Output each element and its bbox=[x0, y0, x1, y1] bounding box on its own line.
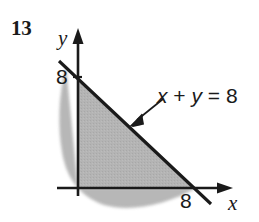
y-axis-arrowhead-icon bbox=[73, 28, 84, 44]
equation-value: 8 bbox=[226, 84, 238, 107]
equation-plus-operator: + bbox=[173, 84, 186, 107]
equation-variable-x: x bbox=[157, 84, 168, 107]
y-intercept-tick-label: 8 bbox=[56, 66, 68, 87]
graph-canvas bbox=[0, 0, 259, 222]
x-intercept-tick-label: 8 bbox=[180, 190, 192, 211]
y-axis-label: y bbox=[58, 28, 67, 49]
exercise-number: 13 bbox=[11, 18, 31, 39]
equation-equals-operator: = bbox=[208, 84, 221, 107]
equation-annotation: x+y=8 bbox=[157, 85, 238, 106]
equation-variable-y: y bbox=[191, 84, 202, 107]
leader-arrow-head-fill bbox=[130, 114, 144, 128]
x-axis-label: x bbox=[228, 193, 237, 214]
exercise-figure: 13 y x 8 8 x+y=8 bbox=[0, 0, 259, 222]
